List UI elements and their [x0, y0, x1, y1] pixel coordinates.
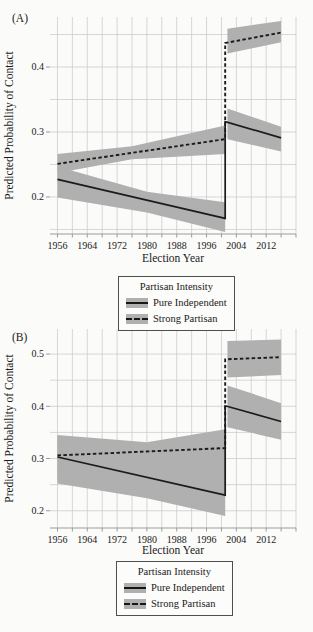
pure-independent-band-swatch [124, 583, 146, 593]
y-tick-label-0.3: 0.3 [32, 453, 45, 464]
y-tick-label-0.3: 0.3 [32, 126, 45, 137]
legend-panel-a: Partisan Intensity Pure Independent Stro… [118, 276, 235, 331]
legend-entry-strong-partisan: Strong Partisan [124, 597, 225, 610]
dashed-line-icon [124, 603, 146, 605]
panel-b-y-axis-title: Predicted Probability of Contact [3, 353, 16, 502]
legend-label-pure-independent: Pure Independent [151, 581, 225, 594]
strong-partisan-band-swatch [126, 314, 148, 324]
y-tick-label-0.4: 0.4 [32, 401, 45, 412]
x-tick-label-2004: 2004 [226, 240, 246, 251]
y-tick-label-0.5: 0.5 [32, 348, 45, 359]
legend-entry-pure-independent: Pure Independent [124, 581, 225, 594]
x-tick-label-1964: 1964 [77, 240, 97, 251]
x-tick-label-1972: 1972 [107, 240, 127, 251]
legend-title: Partisan Intensity [124, 565, 225, 578]
legend-label-strong-partisan: Strong Partisan [153, 312, 217, 325]
legend-label-pure-independent: Pure Independent [153, 296, 227, 309]
x-tick-label-1988: 1988 [167, 240, 187, 251]
panel-a-y-axis-title: Predicted Probability of Contact [3, 50, 16, 199]
panel-a-label: (A) [12, 12, 28, 25]
strong-partisan-band-swatch [124, 599, 146, 609]
x-tick-label-1996: 1996 [197, 240, 217, 251]
x-tick-label-2012: 2012 [256, 240, 276, 251]
x-tick-label-1964: 1964 [77, 534, 97, 545]
panel-a-plot: 195619641972198019881996200420120.20.30.… [32, 17, 297, 251]
figure-page: 195619641972198019881996200420120.20.30.… [0, 0, 313, 632]
panel-b-label: (B) [12, 331, 28, 344]
y-tick-label-0.4: 0.4 [32, 61, 45, 72]
legend-entry-strong-partisan: Strong Partisan [126, 312, 227, 325]
panel-b-x-axis-title: Election Year [142, 544, 204, 556]
x-tick-label-1980: 1980 [137, 240, 157, 251]
solid-line-icon [124, 587, 146, 589]
x-tick-label-1972: 1972 [107, 534, 127, 545]
panel-a-x-axis-title: Election Year [142, 252, 204, 264]
solid-line-icon [126, 302, 148, 304]
legend-title: Partisan Intensity [126, 280, 227, 293]
pure-independent-confidence-band-post [227, 385, 281, 439]
panel-b-plot: 195619641972198019881996200420120.20.30.… [32, 329, 297, 545]
x-tick-label-1956: 1956 [47, 534, 67, 545]
x-tick-label-2012: 2012 [256, 534, 276, 545]
pure-independent-band-swatch [126, 298, 148, 308]
x-tick-label-1956: 1956 [47, 240, 67, 251]
legend-label-strong-partisan: Strong Partisan [151, 597, 215, 610]
dashed-line-icon [126, 318, 148, 320]
legend-entry-pure-independent: Pure Independent [126, 296, 227, 309]
strong-partisan-confidence-band-pre [57, 126, 225, 173]
y-tick-label-0.2: 0.2 [32, 191, 45, 202]
x-tick-label-2004: 2004 [226, 534, 246, 545]
y-tick-label-0.2: 0.2 [32, 505, 45, 516]
legend-panel-b: Partisan Intensity Pure Independent Stro… [116, 561, 233, 616]
